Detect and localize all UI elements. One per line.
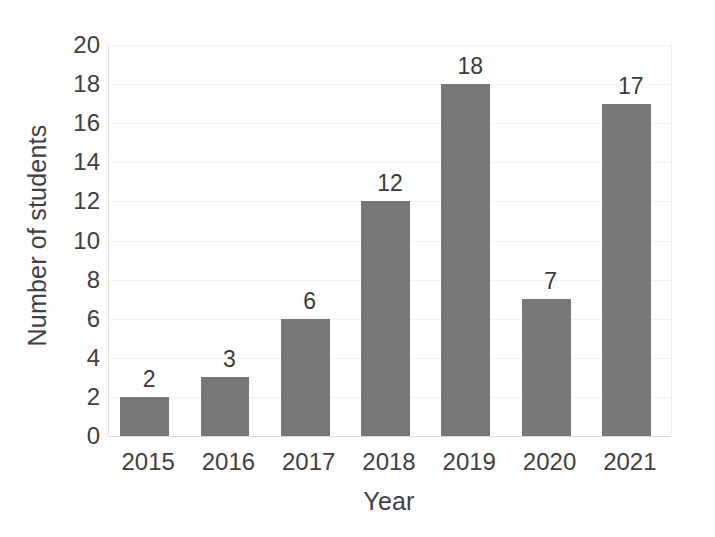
bar-slot: 2 [109,45,189,436]
bar-slot: 6 [270,45,350,436]
bar-value-label: 18 [430,55,510,78]
x-axis-tick-label: 2017 [269,448,349,476]
bar[interactable] [361,201,410,436]
y-axis-tick-label: 14 [52,150,100,174]
y-axis-tick-label: 8 [52,268,100,292]
bar[interactable] [522,299,571,436]
y-axis-tick-label: 0 [52,424,100,448]
bar-value-label: 6 [270,290,350,313]
bar-value-label: 17 [591,75,671,98]
bar[interactable] [281,319,330,436]
x-axis-tick-labels: 2015201620172018201920202021 [108,448,670,480]
bar-slot: 3 [189,45,269,436]
bar-slot: 18 [430,45,510,436]
y-axis-tick-label: 16 [52,111,100,135]
bar-value-label: 7 [510,270,590,293]
x-axis-tick-label: 2021 [590,448,670,476]
y-axis-title: Number of students [22,40,52,431]
bar[interactable] [201,377,250,436]
y-axis-tick-label: 18 [52,72,100,96]
bar-value-label: 3 [189,348,269,371]
x-axis-tick-label: 2018 [349,448,429,476]
x-axis-tick-label: 2020 [509,448,589,476]
x-axis-tick-label: 2019 [429,448,509,476]
bar-chart: Number of students 20181614121086420 236… [0,0,715,537]
bar-slot: 12 [350,45,430,436]
y-axis-tick-label: 6 [52,307,100,331]
bar-slot: 17 [591,45,671,436]
y-axis-tick-label: 20 [52,33,100,57]
bar[interactable] [441,84,490,436]
y-axis-tick-label: 10 [52,229,100,253]
bar[interactable] [120,397,169,436]
y-axis-tick-labels: 20181614121086420 [52,0,100,537]
x-axis-tick-label: 2016 [188,448,268,476]
bar-value-label: 2 [109,368,189,391]
y-axis-tick-label: 4 [52,346,100,370]
bar[interactable] [602,104,651,436]
plot-area: 2361218717 [108,45,672,436]
y-axis-tick-label: 12 [52,189,100,213]
y-axis-tick-label: 2 [52,385,100,409]
bar-value-label: 12 [350,172,430,195]
x-axis-title: Year [108,486,670,516]
bar-slot: 7 [510,45,590,436]
bar-series: 2361218717 [109,45,671,436]
x-axis-tick-label: 2015 [108,448,188,476]
